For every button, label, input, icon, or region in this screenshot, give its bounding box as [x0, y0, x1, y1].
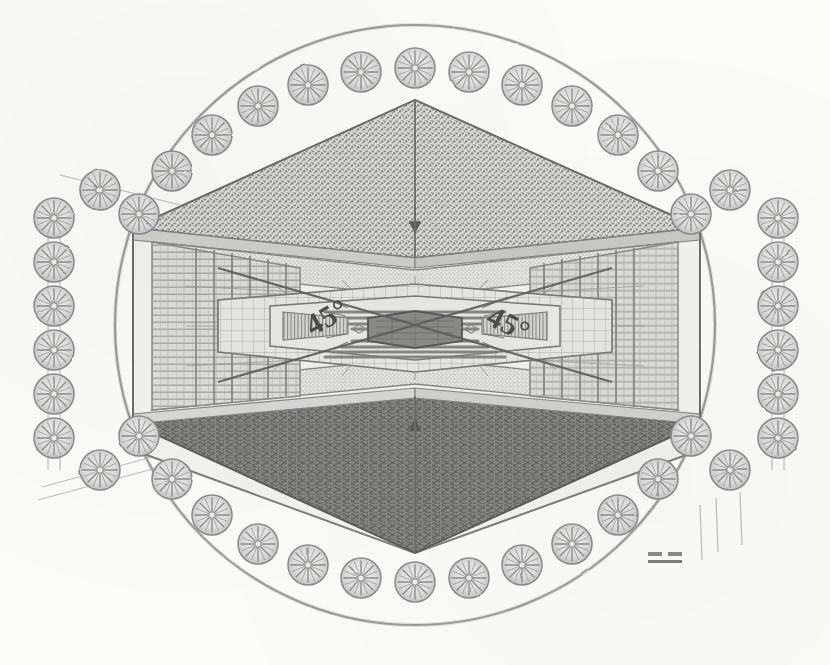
drawing-canvas: 45° 45° Symmetrical courtyard building —… — [0, 0, 830, 665]
scale-bar — [648, 552, 682, 563]
tree-symbol — [34, 374, 74, 414]
tree-column-left — [34, 170, 120, 490]
tree-symbol — [80, 170, 120, 210]
tree-symbol — [598, 495, 638, 535]
leader-line-lower-right-2 — [716, 498, 718, 552]
tree-symbol — [552, 86, 592, 126]
tree-symbol — [152, 459, 192, 499]
tree-symbol — [710, 450, 750, 490]
tree-symbol — [395, 562, 435, 602]
tree-symbol — [341, 52, 381, 92]
tree-symbol — [152, 151, 192, 191]
tree-symbol — [671, 416, 711, 456]
tree-symbol — [638, 459, 678, 499]
tree-symbol — [449, 52, 489, 92]
tree-column-right — [710, 170, 798, 490]
tree-symbol — [758, 374, 798, 414]
tree-symbol — [34, 418, 74, 458]
tree-symbol — [758, 198, 798, 238]
tree-symbol — [502, 545, 542, 585]
tree-symbol — [758, 330, 798, 370]
tree-symbol — [552, 524, 592, 564]
tree-symbol — [598, 115, 638, 155]
tree-symbol — [288, 545, 328, 585]
tree-symbol — [502, 65, 542, 105]
tree-symbol — [341, 558, 381, 598]
tree-symbol — [80, 450, 120, 490]
tree-symbol — [395, 48, 435, 88]
tree-symbol — [449, 558, 489, 598]
tree-symbol — [758, 286, 798, 326]
tree-symbol — [34, 198, 74, 238]
tree-symbol — [710, 170, 750, 210]
tree-symbol — [34, 330, 74, 370]
tree-symbol — [288, 65, 328, 105]
tree-symbol — [34, 286, 74, 326]
tree-symbol — [638, 151, 678, 191]
building-mass — [133, 100, 700, 553]
tree-symbol — [119, 416, 159, 456]
tree-symbol — [192, 495, 232, 535]
tree-symbol — [758, 418, 798, 458]
architectural-drawing — [0, 0, 830, 665]
tree-symbol — [758, 242, 798, 282]
tree-symbol — [238, 524, 278, 564]
tree-symbol — [192, 115, 232, 155]
tree-symbol — [119, 194, 159, 234]
tree-symbol — [671, 194, 711, 234]
tree-symbol — [238, 86, 278, 126]
leader-line-lower-right-1 — [700, 505, 702, 560]
leader-line-lower-right-3 — [740, 492, 742, 545]
tree-symbol — [34, 242, 74, 282]
